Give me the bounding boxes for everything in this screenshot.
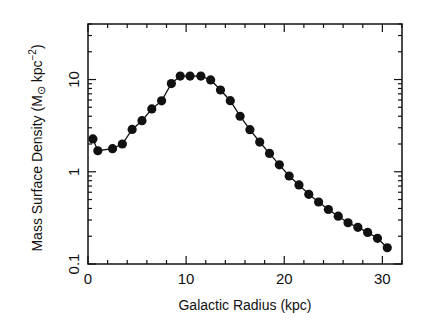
data-point [157,96,166,105]
y-axis-title-main: Mass Surface Density (M [29,95,45,251]
x-axis-title: Galactic Radius (kpc) [178,297,311,313]
y-axis-title-close: ) [29,44,45,49]
data-point [275,160,284,169]
data-point [373,234,382,243]
x-tick-label: 0 [84,270,92,287]
data-point [255,137,264,146]
y-tick-labels: 0.1110 [65,71,82,274]
y-axis-title-exponent: −2 [27,49,38,61]
y-tick-label: 0.1 [65,254,82,275]
data-point [185,71,194,80]
data-point [383,243,392,252]
data-point [363,228,372,237]
y-tick-label: 10 [65,71,82,88]
data-point [314,197,323,206]
x-tick-labels: 0102030 [84,270,391,287]
data-point [147,104,156,113]
data-point [235,112,244,121]
y-tick-label: 1 [65,168,82,176]
data-point [137,116,146,125]
x-tick-label: 20 [276,270,293,287]
data-point [216,85,225,94]
x-tick-label: 30 [374,270,391,287]
data-point [206,75,215,84]
data-point [176,71,185,80]
data-point [353,223,362,232]
data-point [196,71,205,80]
y-axis-title-unit: kpc [29,61,45,87]
data-point [226,96,235,105]
data-point [343,218,352,227]
data-point [93,146,102,155]
data-point [285,171,294,180]
data-point [334,212,343,221]
data-point [128,125,137,134]
data-point [88,134,97,143]
data-point [167,79,176,88]
chart: 0102030 0.1110 Galactic Radius (kpc) Mas… [0,0,423,330]
data-points [88,71,392,252]
data-line [93,76,387,248]
y-axis-title: Mass Surface Density (M⊙ kpc−2) [27,44,47,251]
data-point [304,190,313,199]
data-point [324,205,333,214]
data-point [118,139,127,148]
y-axis-title-sun-symbol: ⊙ [35,86,47,95]
data-point [294,180,303,189]
data-point [245,125,254,134]
x-tick-label: 10 [178,270,195,287]
data-point [265,149,274,158]
data-point [108,144,117,153]
